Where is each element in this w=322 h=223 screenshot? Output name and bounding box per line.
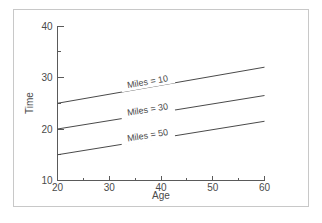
figure-root: 10203040 2030405060 Miles = 10Miles = 30… [0,0,322,223]
series-labels-group: Miles = 10Miles = 30Miles = 50 [120,73,175,145]
y-tick-label: 30 [41,72,53,83]
y-axis-title: Time [24,92,35,114]
y-axis-tick-labels: 10203040 [41,21,53,187]
x-tick-label: 30 [104,182,116,193]
x-tick-label: 60 [259,182,271,193]
x-axis-major-ticks [58,176,265,181]
y-tick-label: 40 [41,21,53,32]
x-axis-title: Age [152,190,170,201]
x-tick-label: 20 [52,182,64,193]
y-tick-label: 20 [41,124,53,135]
x-tick-label: 50 [207,182,219,193]
line-chart: 10203040 2030405060 Miles = 10Miles = 30… [0,0,322,223]
